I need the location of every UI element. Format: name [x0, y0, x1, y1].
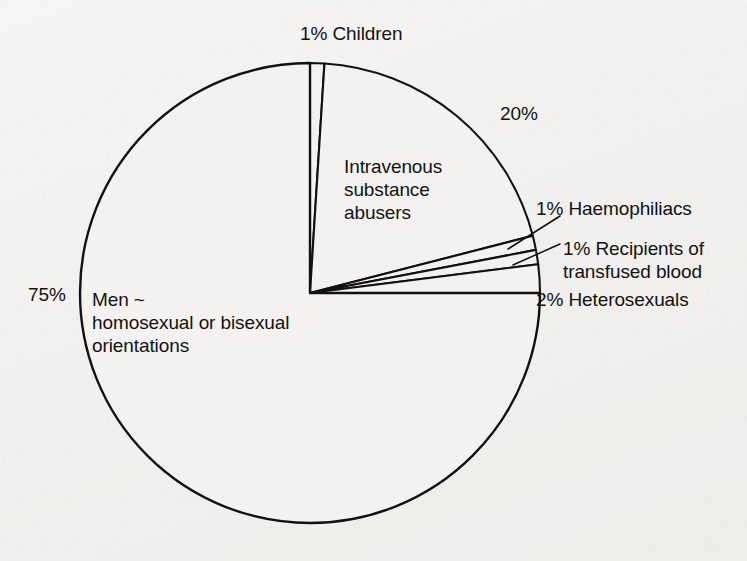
- slice-label-men-homosexual-or-bisexual: Men ~ homosexual or bisexual orientation…: [92, 288, 289, 357]
- figure-canvas: 1% Children 20% Intravenous substance ab…: [0, 0, 747, 561]
- slice-label-heterosexuals: 2% Heterosexuals: [536, 288, 689, 311]
- slice-label-intravenous-substance-abusers: Intravenous substance abusers: [344, 155, 442, 224]
- slice-percent-men: 75%: [28, 283, 66, 306]
- slice-percent-intravenous-substance-abusers: 20%: [500, 102, 538, 125]
- slice-label-haemophiliacs: 1% Haemophiliacs: [536, 197, 692, 220]
- slice-label-recipients-of-transfused-blood: 1% Recipients of transfused blood: [563, 237, 704, 283]
- slice-label-children: 1% Children: [300, 22, 402, 45]
